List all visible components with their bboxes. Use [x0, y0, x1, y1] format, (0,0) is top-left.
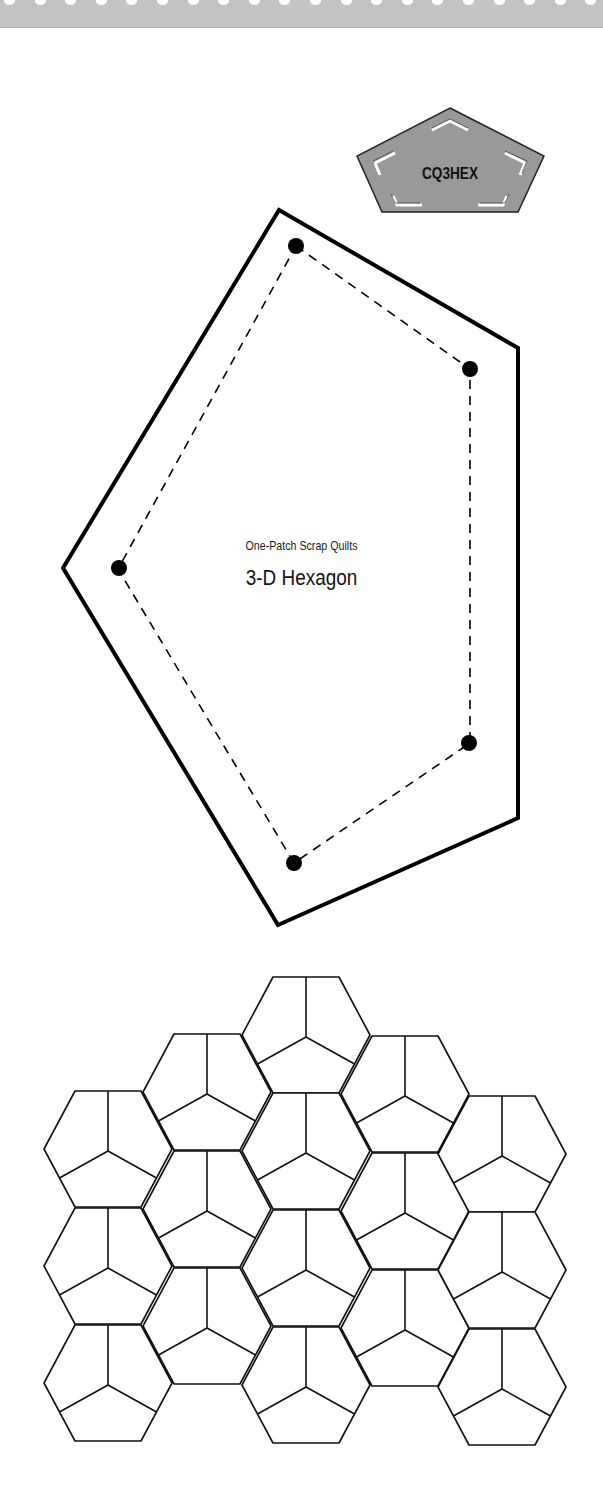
pattern-code-label: CQ3HEX: [403, 165, 497, 183]
template-title: 3-D Hexagon: [197, 565, 406, 591]
page-artwork: [0, 0, 603, 1493]
pattern-code-badge: [357, 108, 544, 212]
quilt-layout-diagram: [44, 977, 566, 1445]
corner-dot-icon: [111, 560, 127, 576]
template-subtitle: One-Patch Scrap Quilts: [218, 538, 384, 553]
corner-dot-icon: [288, 238, 304, 254]
corner-dot-icon: [462, 361, 478, 377]
corner-dot-icon: [461, 735, 477, 751]
corner-dot-icon: [286, 855, 302, 871]
